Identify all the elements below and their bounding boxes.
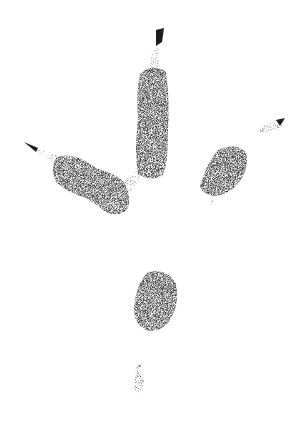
footprint-drawing xyxy=(0,0,302,434)
central-claw-icon xyxy=(156,28,164,46)
left-toe xyxy=(24,142,129,214)
footprint-illustration xyxy=(0,0,302,434)
right-claw-mark xyxy=(260,118,285,133)
central-toe xyxy=(118,28,169,192)
heel-pad xyxy=(134,271,177,331)
right-toe xyxy=(200,146,247,206)
left-claw-icon xyxy=(24,142,38,152)
rear-claw-mark xyxy=(134,362,144,394)
